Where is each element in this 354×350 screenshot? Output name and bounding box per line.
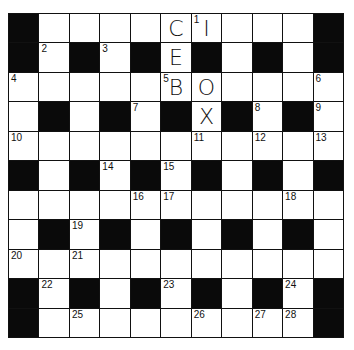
black-square [314, 43, 343, 71]
grid-cell[interactable] [100, 250, 129, 278]
grid-cell[interactable] [39, 191, 68, 219]
grid-cell[interactable] [314, 191, 343, 219]
grid-cell[interactable]: 10 [9, 132, 38, 160]
grid-cell[interactable]: 15 [161, 161, 190, 189]
grid-cell[interactable] [131, 220, 160, 248]
grid-cell[interactable]: X [192, 102, 221, 130]
grid-cell[interactable] [131, 14, 160, 42]
grid-cell[interactable]: 13 [314, 132, 343, 160]
clue-number: 7 [133, 103, 139, 113]
grid-cell[interactable] [131, 309, 160, 337]
grid-cell[interactable] [161, 250, 190, 278]
grid-cell[interactable] [283, 73, 312, 101]
grid-cell[interactable] [222, 309, 251, 337]
black-square [283, 220, 312, 248]
black-square [70, 161, 99, 189]
grid-cell[interactable]: 25 [70, 309, 99, 337]
grid-cell[interactable] [70, 73, 99, 101]
grid-cell[interactable] [161, 309, 190, 337]
grid-cell[interactable] [131, 250, 160, 278]
grid-cell[interactable] [283, 43, 312, 71]
grid-cell[interactable] [222, 191, 251, 219]
grid-cell[interactable]: 2 [39, 43, 68, 71]
grid-cell[interactable]: 22 [39, 279, 68, 307]
grid-cell[interactable]: 17 [161, 191, 190, 219]
grid-cell[interactable]: 11 [192, 132, 221, 160]
grid-cell[interactable] [222, 14, 251, 42]
grid-cell[interactable] [100, 73, 129, 101]
clue-number: 8 [255, 103, 261, 113]
grid-cell[interactable]: 4 [9, 73, 38, 101]
grid-cell[interactable]: 14 [100, 161, 129, 189]
grid-cell[interactable] [283, 250, 312, 278]
grid-cell[interactable] [222, 43, 251, 71]
grid-cell[interactable] [100, 309, 129, 337]
grid-cell[interactable] [314, 250, 343, 278]
grid-cell[interactable] [283, 161, 312, 189]
grid-cell[interactable]: 28 [283, 309, 312, 337]
grid-cell[interactable]: 20 [9, 250, 38, 278]
grid-cell[interactable] [314, 220, 343, 248]
grid-cell[interactable] [9, 220, 38, 248]
grid-cell[interactable] [222, 73, 251, 101]
grid-cell[interactable] [253, 220, 282, 248]
grid-cell[interactable] [161, 132, 190, 160]
grid-cell[interactable] [100, 279, 129, 307]
grid-cell[interactable]: 7 [131, 102, 160, 130]
grid-cell[interactable]: 19 [70, 220, 99, 248]
black-square [192, 161, 221, 189]
grid-cell[interactable]: 9 [314, 102, 343, 130]
grid-cell[interactable] [131, 132, 160, 160]
grid-cell[interactable] [70, 132, 99, 160]
grid-cell[interactable]: C [161, 14, 190, 42]
black-square [39, 220, 68, 248]
grid-cell[interactable] [100, 14, 129, 42]
grid-cell[interactable] [253, 191, 282, 219]
grid-cell[interactable]: 27 [253, 309, 282, 337]
grid-cell[interactable] [283, 132, 312, 160]
grid-cell[interactable] [192, 220, 221, 248]
grid-cell[interactable]: 16 [131, 191, 160, 219]
entered-letter: B [161, 73, 190, 101]
grid-cell[interactable] [222, 161, 251, 189]
grid-cell[interactable] [222, 250, 251, 278]
entered-letter: O [192, 73, 221, 101]
grid-cell[interactable] [131, 73, 160, 101]
grid-cell[interactable] [283, 14, 312, 42]
grid-cell[interactable] [100, 191, 129, 219]
grid-cell[interactable] [39, 14, 68, 42]
grid-cell[interactable] [39, 161, 68, 189]
grid-cell[interactable] [253, 73, 282, 101]
grid-cell[interactable] [253, 14, 282, 42]
grid-cell[interactable] [39, 250, 68, 278]
grid-cell[interactable] [39, 132, 68, 160]
grid-cell[interactable] [192, 191, 221, 219]
grid-cell[interactable] [192, 250, 221, 278]
grid-cell[interactable]: 12 [253, 132, 282, 160]
grid-cell[interactable] [70, 191, 99, 219]
grid-cell[interactable]: 8 [253, 102, 282, 130]
grid-cell[interactable]: 24 [283, 279, 312, 307]
grid-cell[interactable]: 5B [161, 73, 190, 101]
grid-cell[interactable] [9, 191, 38, 219]
grid-cell[interactable]: 23 [161, 279, 190, 307]
grid-cell[interactable] [222, 132, 251, 160]
grid-cell[interactable] [100, 132, 129, 160]
grid-cell[interactable] [253, 250, 282, 278]
grid-cell[interactable] [39, 73, 68, 101]
black-square [39, 102, 68, 130]
grid-cell[interactable]: 3 [100, 43, 129, 71]
grid-cell[interactable]: E [161, 43, 190, 71]
grid-cell[interactable]: 1I [192, 14, 221, 42]
grid-cell[interactable] [222, 279, 251, 307]
grid-cell[interactable] [70, 102, 99, 130]
grid-cell[interactable] [70, 14, 99, 42]
black-square [9, 161, 38, 189]
grid-cell[interactable]: 21 [70, 250, 99, 278]
grid-cell[interactable]: 26 [192, 309, 221, 337]
grid-cell[interactable]: 18 [283, 191, 312, 219]
grid-cell[interactable] [9, 102, 38, 130]
grid-cell[interactable]: 6 [314, 73, 343, 101]
grid-cell[interactable] [39, 309, 68, 337]
grid-cell[interactable]: O [192, 73, 221, 101]
